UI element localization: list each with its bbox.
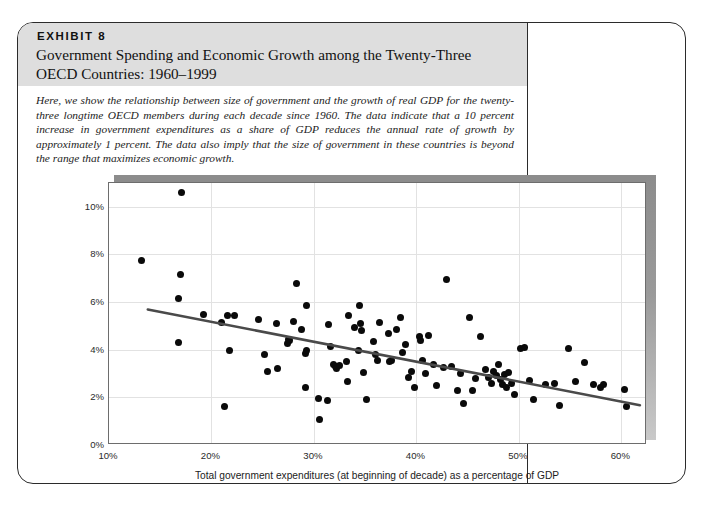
x-tick-label: 30% (303, 450, 322, 461)
trendline (109, 183, 645, 443)
y-tick-label: 10% (85, 200, 104, 211)
x-tick-label: 50% (508, 450, 527, 461)
x-tick-label: 60% (611, 450, 630, 461)
x-axis-title: Total government expenditures (at beginn… (108, 470, 646, 481)
y-tick-label: 4% (90, 343, 104, 354)
scatter-plot-area (108, 182, 646, 444)
exhibit-card: EXHIBIT 8 Government Spending and Econom… (17, 22, 686, 484)
y-tick-label: 0% (90, 439, 104, 450)
chart-block: 0%2%4%6%8%10% 10%20%30%40%50%60% Decade-… (18, 23, 686, 484)
y-tick-label: 6% (90, 296, 104, 307)
x-tick-label: 40% (406, 450, 425, 461)
x-tick-label: 10% (98, 450, 117, 461)
y-tick-label: 8% (90, 248, 104, 259)
plot-shadow-right (646, 175, 656, 440)
x-tick-label: 20% (201, 450, 220, 461)
y-tick-label: 2% (90, 391, 104, 402)
